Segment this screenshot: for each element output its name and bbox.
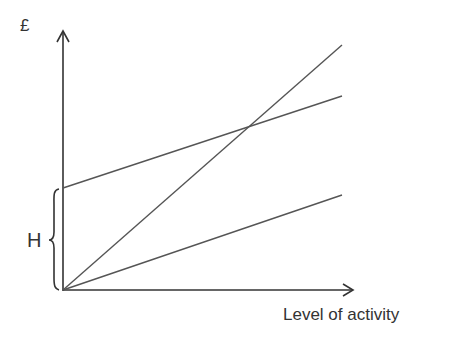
total-cost-line	[63, 96, 342, 188]
x-axis-label: Level of activity	[283, 305, 399, 325]
y-axis-label: £	[20, 16, 29, 36]
fixed-cost-label: H	[27, 229, 41, 252]
variable-cost-line	[63, 195, 342, 290]
fixed-cost-brace	[49, 189, 59, 290]
break-even-diagram	[0, 0, 462, 348]
revenue-line	[63, 45, 342, 290]
